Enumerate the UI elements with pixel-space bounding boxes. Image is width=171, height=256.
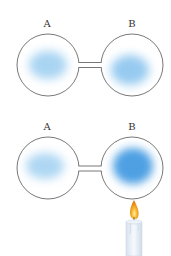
candle-icon [126,200,142,256]
gas-cloud-b [111,55,149,85]
gas-cloud-a-heated [26,153,64,179]
bottom-panel [17,137,163,256]
gas-cloud-a [29,51,67,79]
candle-top [126,220,142,224]
wax-drip [130,223,131,234]
gas-cloud-b-heated [113,148,153,184]
flame-icon [130,200,139,219]
candle-body [126,222,142,256]
top-panel [17,34,163,96]
connecting-tube-fill [78,63,102,68]
wax-drip [138,223,139,231]
connecting-tube-fill-bottom [78,166,102,171]
gas-bulbs-diagram [0,0,171,256]
